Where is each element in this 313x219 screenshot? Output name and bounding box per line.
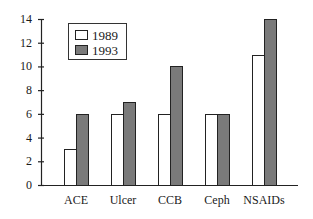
legend: 1989 1993: [68, 23, 127, 60]
legend-label: 1989: [92, 29, 118, 42]
x-category-label: ACE: [51, 194, 101, 206]
y-tick-label: 10: [12, 60, 32, 72]
bar-ace-1993: [76, 114, 89, 186]
y-tick-label: 4: [12, 132, 32, 144]
legend-label: 1993: [92, 44, 118, 57]
y-tick-label: 12: [12, 37, 32, 49]
y-tick-label: 0: [12, 179, 32, 191]
y-tick-label: 8: [12, 84, 32, 96]
bar-ulcer-1993: [123, 102, 136, 186]
bar-nsaids-1993: [264, 19, 277, 186]
bar-chart: 02468101214ACEUlcerCCBCephNSAIDs 1989 19…: [0, 0, 313, 219]
x-category-label: Ulcer: [98, 194, 148, 206]
y-tick-label: 14: [12, 13, 32, 25]
x-category-label: NSAIDs: [239, 194, 289, 206]
x-category-label: CCB: [145, 194, 195, 206]
y-tick-label: 2: [12, 155, 32, 167]
legend-swatch-1993: [75, 45, 88, 55]
legend-swatch-1989: [75, 30, 88, 40]
bar-ceph-1993: [217, 114, 230, 186]
x-category-label: Ceph: [192, 194, 242, 206]
bar-ccb-1993: [170, 66, 183, 186]
y-tick-label: 6: [12, 108, 32, 120]
